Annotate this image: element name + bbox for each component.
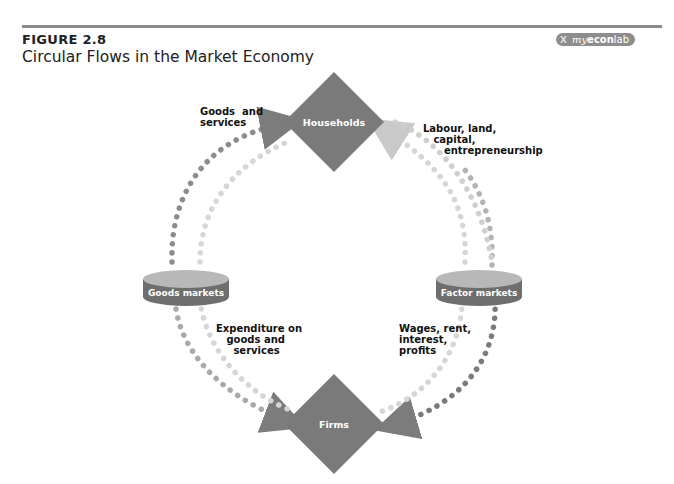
goods-markets-label: Goods markets <box>148 288 224 298</box>
flow-label-expenditure: Expenditure on goods and services <box>216 323 302 356</box>
goods-to-households-flow <box>172 124 282 262</box>
flow-label-incomes: Wages, rent, interest, profits <box>399 323 471 356</box>
households-label: Households <box>303 117 366 128</box>
flow-label-factors: Labour, land, capital, entrepreneurship <box>423 123 543 156</box>
light-left-upper <box>200 140 292 262</box>
firms-label: Firms <box>319 419 349 430</box>
flow-label-goods-services: Goods and services <box>200 106 263 128</box>
money-flow-path <box>200 122 492 412</box>
factor-markets-label: Factor markets <box>441 288 517 298</box>
circular-flow-diagram: Households Firms Goods markets Factor ma… <box>0 0 674 484</box>
